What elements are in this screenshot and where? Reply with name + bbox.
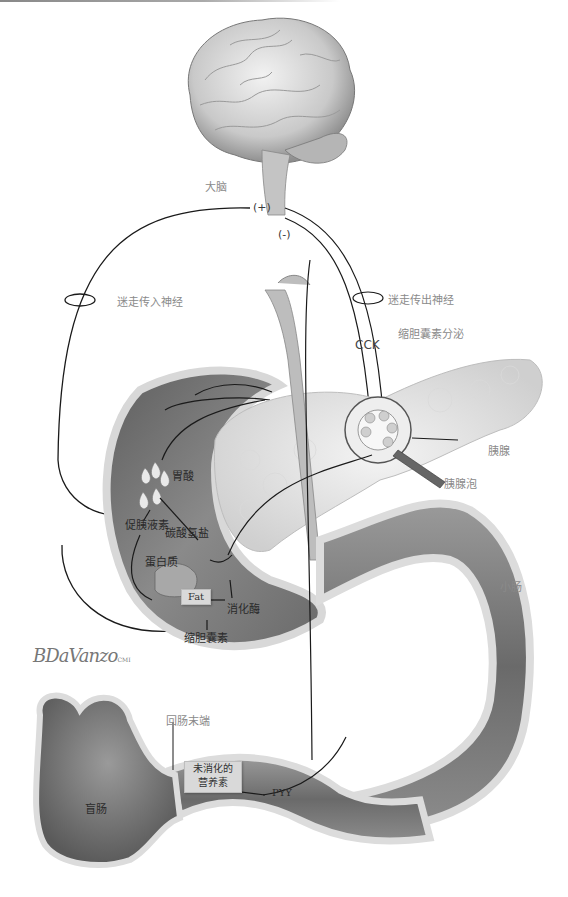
undigested-nutrients-box: 未消化的 营养素 [184, 761, 242, 793]
label-inhibitory: (-) [278, 228, 291, 241]
label-secretin: 促胰液素 [125, 516, 169, 532]
label-pyy: PYY [272, 787, 292, 798]
label-terminal-ileum: 回肠末端 [166, 712, 210, 728]
label-cck: CCK [355, 338, 380, 352]
label-cecum: 盲肠 [85, 800, 107, 816]
label-pancreas: 胰腺 [488, 442, 510, 458]
label-protein: 蛋白质 [145, 553, 178, 569]
label-excitatory: (+) [253, 201, 271, 214]
label-cck-secretion: 缩胆囊素分泌 [398, 325, 464, 341]
diagram-canvas [0, 0, 568, 897]
label-vagal-afferent: 迷走传入神经 [117, 293, 183, 309]
cecum [36, 696, 180, 865]
artist-signature: BDaVanzoCMI [33, 645, 131, 666]
label-undigested-line1: 未消化的 [185, 762, 241, 776]
fat-box: Fat [181, 589, 211, 605]
label-digestive-enzymes: 消化酶 [227, 600, 260, 616]
label-cholecystokinin: 缩胆囊素 [184, 629, 228, 645]
label-small-intestine: 小肠 [500, 578, 522, 594]
label-acinus: 胰腺泡 [444, 475, 477, 491]
label-gastric-acid: 胃酸 [172, 467, 194, 483]
label-fat: Fat [188, 591, 204, 602]
label-brain: 大脑 [205, 178, 227, 194]
label-bicarbonate: 碳酸氢盐 [165, 524, 209, 540]
label-undigested-line2: 营养素 [185, 776, 241, 790]
label-vagal-efferent: 迷走传出神经 [388, 291, 454, 307]
